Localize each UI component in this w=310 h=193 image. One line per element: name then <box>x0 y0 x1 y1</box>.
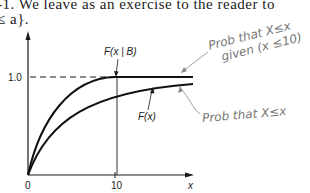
x-tick-0: 0 <box>25 180 31 191</box>
x-axis-arrow-icon <box>185 173 194 178</box>
hand-arrow-lower-icon <box>178 86 183 93</box>
x-tick-10: 10 <box>111 180 123 191</box>
hand-lower-note: Prob that X≤x <box>202 104 288 125</box>
handwritten-upper-note: Prob that X≤x given (x ≤10) <box>207 17 303 67</box>
hand-pointer-lower <box>180 88 200 114</box>
label-f-x: F(x) <box>138 111 156 122</box>
x-axis-label: x <box>187 180 194 191</box>
label-f-x-given-b: F(x | B) <box>104 46 137 57</box>
y-axis-arrow-icon <box>26 31 31 40</box>
hand-pointer-upper <box>183 52 208 71</box>
hand-arrow-upper-icon <box>181 67 187 73</box>
curve-f-x-given-b <box>28 77 193 175</box>
y-tick-1: 1.0 <box>8 72 22 83</box>
curve-f-x <box>28 84 193 175</box>
cdf-figure: 1.0 0 10 x F(x | B) F(x) Prob that X≤x g… <box>0 0 310 193</box>
